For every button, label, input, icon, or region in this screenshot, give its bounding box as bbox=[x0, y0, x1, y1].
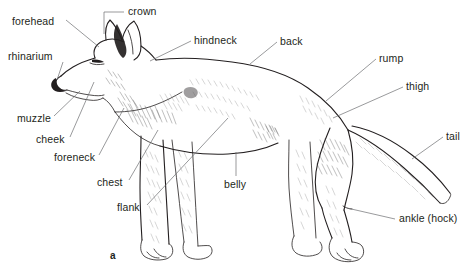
leader-tail bbox=[412, 137, 443, 159]
dog-anatomy-figure: forehead crown hindneck back rump thigh … bbox=[0, 0, 476, 274]
figure-caption-letter: a bbox=[110, 250, 116, 261]
label-rhinarium: rhinarium bbox=[8, 51, 53, 62]
leader-rump bbox=[326, 59, 376, 101]
label-chest: chest bbox=[97, 177, 123, 188]
label-forehead: forehead bbox=[12, 16, 54, 27]
label-thigh: thigh bbox=[406, 81, 429, 92]
label-cheek: cheek bbox=[36, 134, 65, 145]
label-belly: belly bbox=[224, 179, 246, 190]
leader-ankle bbox=[347, 208, 395, 219]
label-flank: flank bbox=[117, 202, 140, 213]
label-foreneck: foreneck bbox=[54, 152, 95, 163]
leader-back bbox=[250, 42, 277, 64]
leader-crown bbox=[104, 12, 124, 34]
leader-flank bbox=[147, 118, 228, 205]
label-tail: tail bbox=[446, 131, 460, 142]
label-ankle-hock: ankle (hock) bbox=[399, 213, 457, 224]
dog-illustration bbox=[0, 0, 476, 274]
label-hindneck: hindneck bbox=[194, 35, 237, 46]
label-rump: rump bbox=[379, 53, 403, 64]
leader-thigh bbox=[333, 87, 403, 118]
label-muzzle: muzzle bbox=[17, 113, 51, 124]
leader-rhinarium bbox=[57, 62, 63, 80]
leader-muzzle bbox=[54, 91, 80, 116]
leader-cheek bbox=[70, 82, 94, 137]
label-crown: crown bbox=[128, 6, 157, 17]
label-back: back bbox=[280, 36, 303, 47]
fur-shading bbox=[106, 70, 433, 243]
leader-forehead bbox=[66, 20, 99, 47]
leader-foreneck bbox=[99, 108, 124, 155]
